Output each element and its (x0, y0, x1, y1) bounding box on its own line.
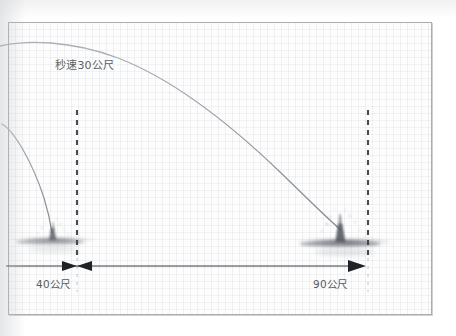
far-range-arrowhead (348, 260, 366, 272)
speed-annotation-label: 秒速30公尺 (55, 56, 114, 72)
long-trajectory-arc (0, 42, 341, 230)
far-distance-label: 90公尺 (313, 276, 347, 291)
near-range-arrowhead-left (77, 261, 92, 271)
near-distance-label: 40公尺 (36, 276, 70, 291)
near-impact-splash (10, 219, 98, 253)
short-trajectory-arc (2, 124, 52, 233)
far-impact-splash (292, 209, 396, 256)
near-range-arrowhead-right (62, 261, 77, 271)
scanned-figure: 秒速30公尺 40公尺 90公尺 (0, 0, 456, 336)
measurement-axis (6, 260, 366, 272)
